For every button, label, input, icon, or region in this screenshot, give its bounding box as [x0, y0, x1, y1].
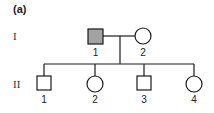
individual-i-2: 2	[135, 28, 151, 58]
generation-label-i: I	[13, 30, 17, 42]
individual-i-1: 1	[88, 29, 103, 58]
individual-ii-1: 1	[37, 76, 51, 105]
male-square-icon	[137, 76, 151, 90]
individual-number: 3	[141, 94, 147, 105]
individual-number: 4	[191, 94, 197, 105]
panel-label: (a)	[13, 3, 27, 15]
individual-number: 2	[92, 94, 98, 105]
affected-male-square-icon	[88, 29, 103, 44]
individual-ii-4: 4	[186, 76, 202, 105]
female-circle-icon	[87, 76, 103, 92]
individual-ii-3: 3	[137, 76, 151, 105]
individual-ii-2: 2	[87, 76, 103, 105]
individual-number: 1	[93, 47, 99, 58]
female-circle-icon	[186, 76, 202, 92]
generation-label-ii: II	[13, 78, 21, 90]
pedigree-diagram: (a) I II 1 2 1 2 3 4	[0, 0, 214, 113]
male-square-icon	[37, 76, 51, 90]
individual-number: 2	[140, 47, 146, 58]
individual-number: 1	[41, 94, 47, 105]
female-circle-icon	[135, 28, 151, 44]
